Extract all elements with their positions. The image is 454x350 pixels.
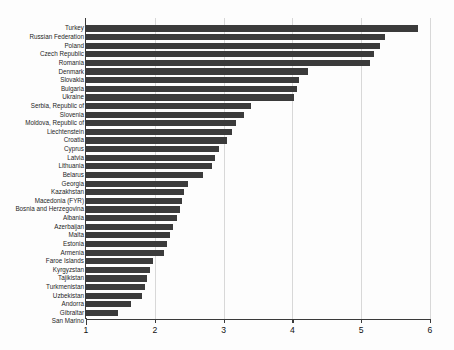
bar bbox=[86, 25, 418, 31]
bar bbox=[86, 318, 87, 324]
bar bbox=[86, 163, 212, 169]
bar bbox=[86, 206, 180, 212]
bar bbox=[86, 310, 118, 316]
bar bbox=[86, 51, 374, 57]
bar bbox=[86, 103, 251, 109]
bar bbox=[86, 129, 232, 135]
bar bbox=[86, 232, 170, 238]
bar bbox=[86, 112, 244, 118]
bar bbox=[86, 293, 142, 299]
bar-row bbox=[86, 317, 430, 326]
bar bbox=[86, 267, 150, 273]
bar bbox=[86, 60, 370, 66]
bar bbox=[86, 68, 308, 74]
bar bbox=[86, 94, 294, 100]
x-axis-tick bbox=[430, 319, 431, 323]
x-axis-tick-label: 5 bbox=[359, 325, 364, 335]
bar bbox=[86, 86, 297, 92]
bar bbox=[86, 155, 215, 161]
bar-chart: 123456 TurkeyRussian FederationPolandCze… bbox=[0, 0, 454, 350]
bar bbox=[86, 241, 167, 247]
bar bbox=[86, 215, 177, 221]
bar bbox=[86, 43, 380, 49]
bar bbox=[86, 120, 236, 126]
bar bbox=[86, 146, 219, 152]
x-axis-tick-label: 1 bbox=[84, 325, 89, 335]
bar bbox=[86, 181, 188, 187]
bar bbox=[86, 172, 203, 178]
bar bbox=[86, 77, 299, 83]
bar bbox=[86, 275, 147, 281]
bar bbox=[86, 137, 227, 143]
bar bbox=[86, 198, 182, 204]
bar bbox=[86, 301, 131, 307]
bar bbox=[86, 189, 184, 195]
bar bbox=[86, 224, 173, 230]
y-axis-label: San Marino bbox=[52, 316, 84, 325]
bar bbox=[86, 258, 153, 264]
x-axis-tick-label: 6 bbox=[428, 325, 433, 335]
bar bbox=[86, 284, 145, 290]
x-axis-tick-label: 3 bbox=[221, 325, 226, 335]
bar bbox=[86, 34, 385, 40]
bar bbox=[86, 250, 164, 256]
gridline bbox=[430, 18, 431, 319]
x-axis-tick-label: 4 bbox=[290, 325, 295, 335]
x-axis-tick-label: 2 bbox=[152, 325, 157, 335]
